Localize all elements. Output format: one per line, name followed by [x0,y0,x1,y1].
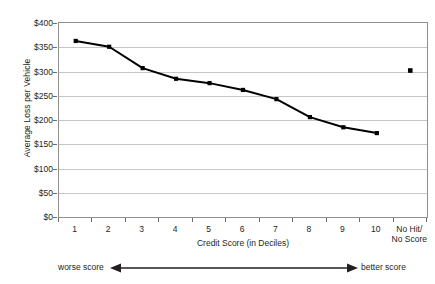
x-tick-mark [225,218,226,222]
no-hit-data-point-marker [408,68,413,73]
x-tick-mark [393,218,394,222]
y-tick-label: $50 [5,188,53,198]
y-tick-label: $200 [5,115,53,125]
x-tick-mark [125,218,126,222]
cut-off-caption [10,279,250,284]
x-axis-title: Credit Score (in Deciles) [58,238,428,248]
y-tick-label: $150 [5,139,53,149]
y-axis-ticks: $0$50$100$150$200$250$300$350$400 [0,0,53,284]
score-direction-annotation: worse score better score [0,262,435,278]
y-tick-label: $0 [5,212,53,222]
y-tick-mark [53,120,57,121]
data-point-marker [74,39,78,43]
chart-figure: Average Loss per Vehicle $0$50$100$150$2… [0,0,435,284]
x-tick-mark [292,218,293,222]
x-tick-mark [259,218,260,222]
no-hit-no-score-marker [408,68,413,73]
data-point-marker [341,125,345,129]
data-point-marker [375,131,379,135]
data-point-marker [174,77,178,81]
better-score-label: better score [361,262,406,272]
y-tick-label: $250 [5,91,53,101]
x-tick-mark [192,218,193,222]
x-tick-mark [426,218,427,222]
loss-line-series [76,41,377,133]
y-tick-label: $100 [5,164,53,174]
y-tick-mark [53,47,57,48]
x-tick-mark [91,218,92,222]
y-tick-mark [53,217,57,218]
data-point-marker [308,115,312,119]
y-tick-label: $400 [5,18,53,28]
y-tick-mark [53,96,57,97]
y-tick-mark [53,193,57,194]
x-tick-mark [58,218,59,222]
y-tick-label: $350 [5,42,53,52]
data-point-marker [274,97,278,101]
x-tick-mark [158,218,159,222]
y-tick-label: $300 [5,67,53,77]
y-tick-mark [53,72,57,73]
double-headed-arrow-icon [110,262,358,274]
x-tick-mark [326,218,327,222]
x-tick-mark [359,218,360,222]
data-point-marker [207,81,211,85]
data-point-marker [107,45,111,49]
worse-score-label: worse score [58,262,104,272]
y-tick-mark [53,169,57,170]
y-tick-mark [53,144,57,145]
data-point-marker [241,88,245,92]
data-point-marker [141,66,145,70]
plot-area [58,22,428,218]
y-tick-mark [53,23,57,24]
series-canvas [59,23,427,217]
